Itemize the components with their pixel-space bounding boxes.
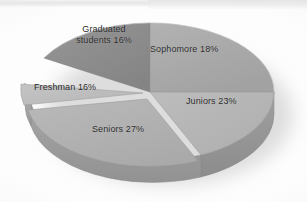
slice-label-graduated: Graduated students 16% <box>60 24 148 45</box>
slice-label-sophomore: Sophomore 18% <box>150 44 242 55</box>
slice-label-freshman: Freshman 16% <box>34 82 120 93</box>
pie-chart-figure: Graduated students 16% Sophomore 18% Jun… <box>0 0 307 202</box>
slice-label-layer: Graduated students 16% Sophomore 18% Jun… <box>0 0 307 202</box>
slice-label-seniors: Seniors 27% <box>92 124 176 135</box>
slice-label-juniors: Juniors 23% <box>186 96 264 107</box>
